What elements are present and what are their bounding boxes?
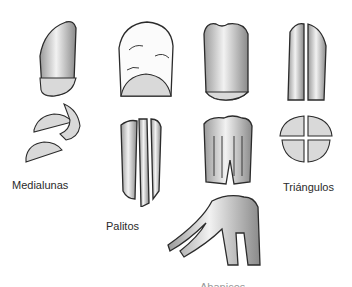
label-triangulos: Triángulos (283, 181, 334, 193)
medialunas-whole-carrot-illustration (30, 18, 90, 100)
medialunas-slices-illustration (20, 100, 90, 170)
triangulos-quarters-illustration (276, 112, 338, 166)
palitos-whole-carrot-illustration (115, 20, 177, 102)
label-abanicos-cropped: Abanicos (200, 281, 245, 287)
label-medialunas: Medialunas (12, 179, 68, 191)
label-palitos: Palitos (106, 220, 139, 232)
triangulos-halved-carrot-illustration (282, 20, 334, 104)
abanicos-slit-carrot-illustration (200, 112, 258, 188)
abanicos-fan-illustration (162, 193, 272, 269)
abanicos-whole-carrot-illustration (200, 20, 258, 104)
